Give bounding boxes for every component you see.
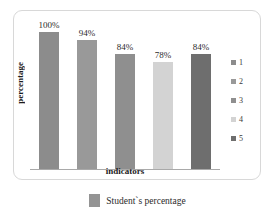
legend-swatch-icon xyxy=(231,60,236,65)
legend-item-label: 1 xyxy=(239,59,243,67)
bar-slot: 94% xyxy=(68,18,106,169)
legend-swatch-icon xyxy=(231,79,236,84)
bar[interactable] xyxy=(153,62,173,169)
plot-area: 100% 94% 84% 78% 84% xyxy=(30,18,220,170)
legend-item-label: 2 xyxy=(239,78,243,86)
bar[interactable] xyxy=(191,54,211,169)
bar-slot: 100% xyxy=(30,18,68,169)
bar-group: 100% 94% 84% 78% 84% xyxy=(30,18,220,170)
bar-slot: 84% xyxy=(106,18,144,169)
bar[interactable] xyxy=(77,40,97,169)
legend-swatch-icon xyxy=(89,194,100,207)
legend-item[interactable]: 5 xyxy=(231,129,257,148)
bar-value-label: 94% xyxy=(68,28,106,38)
bar[interactable] xyxy=(115,54,135,169)
bar-value-label: 84% xyxy=(106,42,144,52)
legend-swatch-icon xyxy=(231,117,236,122)
x-axis-title: indicators xyxy=(30,166,220,176)
legend-item-label: 3 xyxy=(239,97,243,105)
bar-slot: 78% xyxy=(144,18,182,169)
legend-item[interactable]: 3 xyxy=(231,91,257,110)
bar-value-label: 78% xyxy=(144,50,182,60)
bar[interactable] xyxy=(39,32,59,169)
bar-value-label: 100% xyxy=(30,20,68,30)
legend-item[interactable]: 1 xyxy=(231,53,257,72)
legend-item-label: 4 xyxy=(239,116,243,124)
y-axis-title: percentage xyxy=(15,62,27,104)
legend-swatch-icon xyxy=(231,136,236,141)
side-legend: 1 2 3 4 5 xyxy=(231,53,257,148)
legend-item[interactable]: 2 xyxy=(231,72,257,91)
legend-item[interactable]: 4 xyxy=(231,110,257,129)
bottom-legend-label: Student`s percentage xyxy=(106,196,185,206)
bar-slot: 84% xyxy=(182,18,220,169)
bottom-legend: Student`s percentage xyxy=(0,194,275,207)
legend-item-label: 5 xyxy=(239,135,243,143)
legend-swatch-icon xyxy=(231,98,236,103)
bar-chart-figure: percentage 100% 94% 84% 78% 84% xyxy=(0,0,275,224)
bar-value-label: 84% xyxy=(182,42,220,52)
